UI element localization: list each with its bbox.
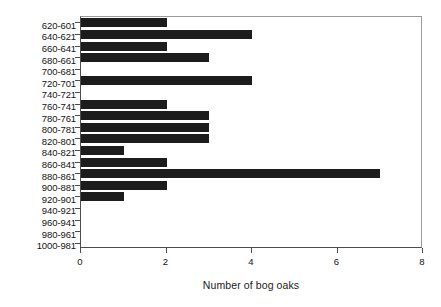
y-axis-tick-label: 820-801 xyxy=(18,137,76,147)
y-axis-tick-label: 980-961 xyxy=(18,230,76,240)
x-axis-tick-label: 6 xyxy=(317,256,357,268)
y-axis-tick-label: 920-901 xyxy=(18,195,76,205)
y-axis-tick-label: 760-741 xyxy=(18,102,76,112)
plot-area xyxy=(80,16,422,248)
y-axis-tick-label: 900-881 xyxy=(18,183,76,193)
x-axis-tick xyxy=(251,248,252,253)
y-axis-tick-label: 740-721 xyxy=(18,90,76,100)
x-axis-tick-label: 2 xyxy=(146,256,186,268)
y-axis-tick-labels: 620-601640-621660-641680-661700-681720-7… xyxy=(18,18,76,248)
x-axis-tick-label: 8 xyxy=(402,256,441,268)
y-axis-tick-label: 700-681 xyxy=(18,67,76,77)
x-axis-tick xyxy=(166,248,167,253)
bar xyxy=(81,181,167,190)
x-axis-tick-labels: 02468 xyxy=(0,256,441,270)
bar xyxy=(81,146,124,155)
y-axis-tick-label: 860-841 xyxy=(18,160,76,170)
bars-layer xyxy=(81,17,421,247)
y-axis-tick-label: 840-821 xyxy=(18,148,76,158)
x-axis-ticks xyxy=(80,248,422,254)
x-axis-tick xyxy=(337,248,338,253)
x-axis-tick-label: 4 xyxy=(231,256,271,268)
bar xyxy=(81,134,209,143)
bar xyxy=(81,192,124,201)
x-axis-tick xyxy=(422,248,423,253)
y-axis-tick-label: 1000-981 xyxy=(18,241,76,251)
y-axis-tick-label: 780-761 xyxy=(18,114,76,124)
y-axis-tick-label: 640-621 xyxy=(18,32,76,42)
bar xyxy=(81,76,252,85)
bar xyxy=(81,100,167,109)
bog-oaks-bar-chart: Years BC 620-601640-621660-641680-661700… xyxy=(0,0,441,307)
bar xyxy=(81,111,209,120)
y-axis-tick-label: 880-861 xyxy=(18,172,76,182)
y-axis-tick-label: 720-701 xyxy=(18,79,76,89)
y-axis-tick-label: 960-941 xyxy=(18,218,76,228)
y-axis-tick-label: 660-641 xyxy=(18,44,76,54)
x-axis-tick xyxy=(80,248,81,253)
bar xyxy=(81,123,209,132)
y-axis-tick-label: 680-661 xyxy=(18,56,76,66)
bar xyxy=(81,169,380,178)
bar xyxy=(81,18,167,27)
x-axis-title: Number of bog oaks xyxy=(80,278,422,292)
x-axis-tick-label: 0 xyxy=(60,256,100,268)
bar xyxy=(81,42,167,51)
bar xyxy=(81,30,252,39)
bar xyxy=(81,158,167,167)
y-axis-tick-label: 800-781 xyxy=(18,125,76,135)
y-axis-tick-label: 620-601 xyxy=(18,21,76,31)
bar xyxy=(81,53,209,62)
y-axis-tick-label: 940-921 xyxy=(18,206,76,216)
